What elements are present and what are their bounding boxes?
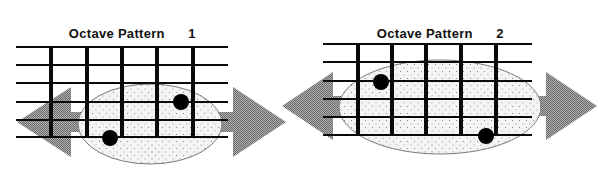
note-dot [102,130,118,146]
octave-range-ellipse [339,60,541,154]
note-dot [373,74,389,90]
note-dot [478,128,494,144]
octave-pattern-1-diagram [16,47,286,164]
octave-diagrams-canvas [0,0,610,169]
octave-pattern-2-diagram [282,44,597,154]
right-arrow-icon [212,87,286,157]
note-dot [173,94,189,110]
octave-range-ellipse [78,84,222,164]
